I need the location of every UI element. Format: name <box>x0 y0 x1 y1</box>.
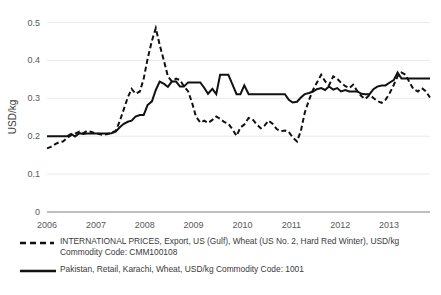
series-line-international-prices <box>47 28 430 148</box>
gridlines <box>47 23 430 213</box>
x-tick-label-2012: 2012 <box>330 220 350 230</box>
dashed-line-marker <box>20 236 56 250</box>
legend-label-pakistan-retail: Pakistan, Retail, Karachi, Wheat, USD/kg… <box>60 264 304 275</box>
y-axis-tick-labels: 0.5 0.4 0.3 0.2 0.1 0 <box>27 18 40 218</box>
x-tick-label-2011: 2011 <box>282 220 301 230</box>
y-tick-label-3: 0.2 <box>27 131 40 141</box>
x-tick-label-2010: 2010 <box>232 220 252 230</box>
solid-line-marker <box>20 264 56 278</box>
legend-label-line1: Pakistan, Retail, Karachi, Wheat, USD/kg… <box>60 264 304 274</box>
x-tick-label-2009: 2009 <box>184 220 204 230</box>
legend-item-international-prices: INTERNATIONAL PRICES, Export, US (Gulf),… <box>0 236 441 257</box>
legend-label-line1: INTERNATIONAL PRICES, Export, US (Gulf),… <box>60 236 399 246</box>
y-tick-label-4: 0.1 <box>27 169 40 179</box>
legend-label-international-prices: INTERNATIONAL PRICES, Export, US (Gulf),… <box>60 236 399 257</box>
x-axis-tick-labels: 2006 2007 2008 2009 2010 2011 2012 2013 <box>37 220 399 230</box>
x-tick-label-2008: 2008 <box>135 220 155 230</box>
y-tick-label-5: 0 <box>35 207 40 217</box>
legend-item-pakistan-retail: Pakistan, Retail, Karachi, Wheat, USD/kg… <box>0 264 441 278</box>
y-tick-label-1: 0.4 <box>27 55 40 65</box>
y-axis-title: USD/kg <box>7 100 18 134</box>
wheat-price-chart-figure: 0.5 0.4 0.3 0.2 0.1 0 2006 2007 2008 200… <box>0 0 441 295</box>
legend-label-line2: Commodity Code: CMM100108 <box>60 247 399 258</box>
y-tick-label-0: 0.5 <box>27 18 40 28</box>
x-tick-label-2006: 2006 <box>37 220 57 230</box>
series-line-pakistan-retail <box>47 73 430 137</box>
chart-legend: INTERNATIONAL PRICES, Export, US (Gulf),… <box>0 236 441 280</box>
x-tick-label-2013: 2013 <box>379 220 399 230</box>
y-tick-label-2: 0.3 <box>27 93 40 103</box>
x-tick-label-2007: 2007 <box>86 220 106 230</box>
chart-plot-area: 0.5 0.4 0.3 0.2 0.1 0 2006 2007 2008 200… <box>0 0 441 236</box>
